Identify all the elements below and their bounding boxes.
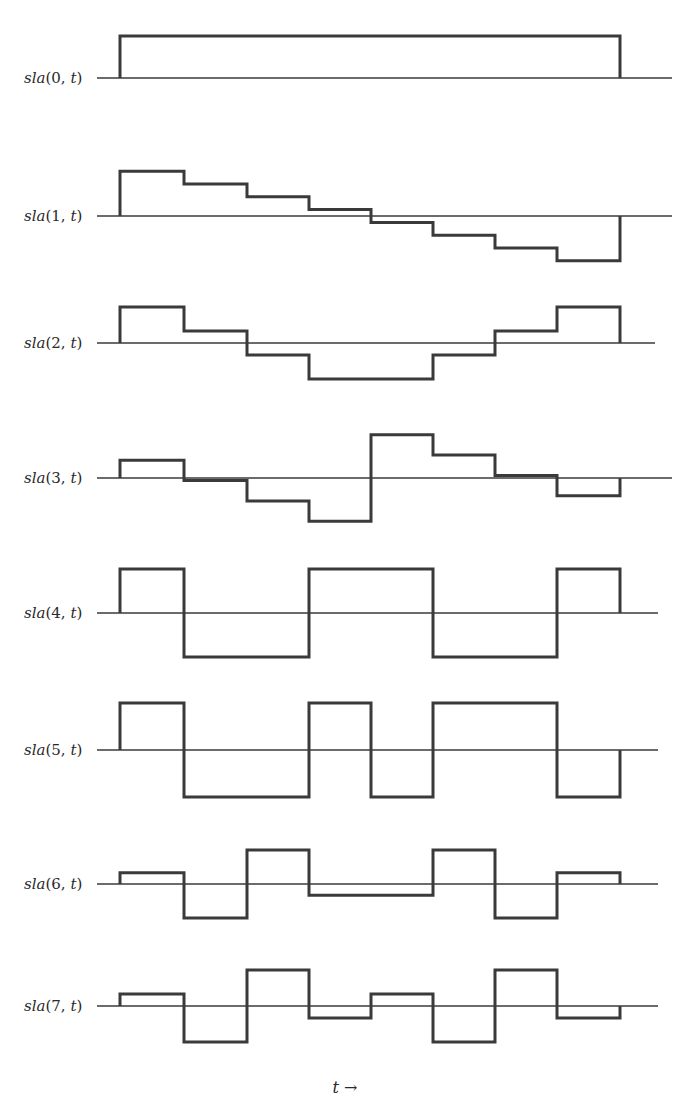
basis-row-7: sla(7, t)	[24, 970, 658, 1042]
row-label: sla(3, t)	[24, 469, 82, 487]
basis-row-3: sla(3, t)	[24, 435, 672, 522]
basis-row-2: sla(2, t)	[24, 307, 655, 379]
basis-row-6: sla(6, t)	[24, 850, 658, 918]
basis-rows: sla(0, t)sla(1, t)sla(2, t)sla(3, t)sla(…	[24, 36, 672, 1042]
t-axis-label: t →	[333, 1078, 358, 1097]
row-label: sla(5, t)	[24, 741, 82, 759]
basis-row-0: sla(0, t)	[24, 36, 672, 87]
slant-basis-figure: sla(0, t)sla(1, t)sla(2, t)sla(3, t)sla(…	[0, 0, 690, 1120]
row-label: sla(6, t)	[24, 875, 82, 893]
step-waveform	[120, 36, 620, 78]
basis-row-5: sla(5, t)	[24, 703, 658, 797]
row-label: sla(2, t)	[24, 334, 82, 352]
row-label: sla(0, t)	[24, 69, 82, 87]
basis-row-4: sla(4, t)	[24, 569, 658, 657]
row-label: sla(7, t)	[24, 997, 82, 1015]
basis-row-1: sla(1, t)	[24, 171, 672, 261]
row-label: sla(4, t)	[24, 604, 82, 622]
row-label: sla(1, t)	[24, 207, 82, 225]
